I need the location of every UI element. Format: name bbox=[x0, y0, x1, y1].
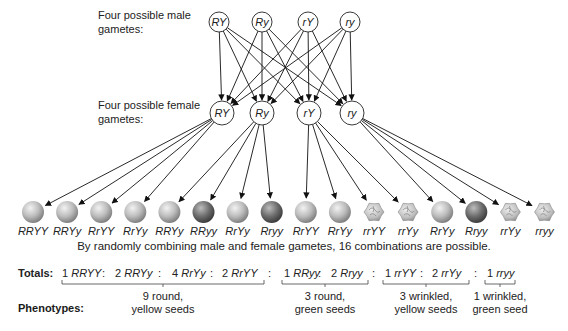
gamete-label: RY bbox=[215, 107, 231, 119]
ratio-separator: : bbox=[372, 267, 375, 279]
arrow bbox=[263, 125, 270, 198]
total-genotype: rrYy bbox=[441, 267, 461, 279]
total-count: 4 bbox=[172, 267, 178, 279]
gamete-label: rY bbox=[304, 107, 316, 119]
ratio-separator: : bbox=[420, 267, 423, 279]
arrow bbox=[361, 120, 465, 203]
arrow bbox=[145, 122, 215, 201]
arrow bbox=[112, 121, 213, 204]
total-count: 2 bbox=[331, 267, 337, 279]
total-genotype: rrYY bbox=[394, 267, 416, 279]
seed-round-green bbox=[193, 201, 215, 223]
total-item-rryy: 1 RRYY bbox=[62, 267, 101, 279]
arrow bbox=[306, 125, 308, 198]
arrow bbox=[227, 28, 341, 106]
arrow bbox=[268, 31, 304, 101]
ratio-separator: : bbox=[158, 267, 161, 279]
phenotype-1-wrinkled-green: 1 wrinkled, green seed bbox=[460, 290, 540, 316]
total-count: 1 bbox=[487, 267, 493, 279]
gamete-label: rY bbox=[303, 16, 315, 28]
male-gamete-ry: rY bbox=[298, 12, 318, 32]
seed-round-green bbox=[465, 201, 487, 223]
gamete-label: Ry bbox=[255, 16, 270, 28]
ratio-separator: : bbox=[102, 267, 105, 279]
total-count: 1 bbox=[62, 267, 68, 279]
seed-round-yellow bbox=[56, 201, 78, 223]
total-item-rryy: 1 RRyy bbox=[284, 267, 320, 279]
phenotype-3-round-green: 3 round, green seeds bbox=[275, 290, 375, 316]
female-gamete-ry: RY bbox=[210, 101, 234, 125]
seed-round-yellow bbox=[295, 201, 317, 223]
ratio-separator: : bbox=[210, 267, 213, 279]
arrow bbox=[223, 31, 256, 101]
total-count: 1 bbox=[385, 267, 391, 279]
seed-row bbox=[22, 201, 555, 223]
total-genotype: RrYY bbox=[231, 267, 257, 279]
gamete-label: ry bbox=[345, 16, 356, 28]
seed-round-green bbox=[261, 201, 283, 223]
seed-round-yellow bbox=[431, 201, 453, 223]
total-genotype: rryy bbox=[496, 267, 514, 279]
seed-wrinkled-yellow bbox=[364, 203, 384, 220]
female-to-seed-arrows bbox=[45, 118, 532, 205]
arrow bbox=[45, 119, 211, 206]
total-item-rryy: 1 rryy bbox=[487, 267, 515, 279]
totals-heading: Totals: bbox=[18, 267, 53, 279]
seed-round-yellow bbox=[227, 201, 249, 223]
cross-diagram: RYRyrYry RYRyrYry bbox=[0, 0, 568, 331]
arrow bbox=[233, 28, 342, 106]
total-count: 2 bbox=[432, 267, 438, 279]
male-gamete-ry: ry bbox=[340, 12, 360, 32]
seed-round-yellow bbox=[158, 201, 180, 223]
total-genotype: RrYy bbox=[181, 267, 205, 279]
seed-round-yellow bbox=[329, 201, 351, 223]
seed-round-yellow bbox=[124, 201, 146, 223]
female-gamete-ry: rY bbox=[297, 101, 321, 125]
female-gamete-ry: ry bbox=[340, 101, 364, 125]
total-item-rryy: 2 RrYY bbox=[222, 267, 257, 279]
arrow bbox=[211, 123, 256, 200]
arrow bbox=[241, 125, 259, 199]
phenotype-9-round-yellow: 9 round, yellow seeds bbox=[113, 290, 213, 316]
arrow bbox=[316, 123, 367, 200]
male-gamete-ry: Ry bbox=[252, 12, 272, 32]
gamete-label: Ry bbox=[255, 107, 270, 119]
total-count: 2 bbox=[115, 267, 121, 279]
female-gamete-ry: Ry bbox=[250, 101, 274, 125]
total-item-rryy: 1 rrYY bbox=[385, 267, 416, 279]
caption: By randomly combining male and female ga… bbox=[0, 240, 568, 252]
seed-wrinkled-green bbox=[535, 203, 555, 220]
arrow bbox=[350, 32, 351, 100]
arrow bbox=[219, 32, 221, 100]
seed-genotype-label: rryy bbox=[525, 225, 565, 237]
ratio-separator: : bbox=[318, 267, 321, 279]
gamete-label: ry bbox=[347, 107, 358, 119]
phenotypes-heading: Phenotypes: bbox=[18, 302, 84, 314]
arrow bbox=[317, 121, 398, 202]
total-item-rryy: 2 RRYy bbox=[115, 267, 153, 279]
seed-wrinkled-yellow bbox=[500, 203, 520, 220]
total-item-rryy: 2 Rryy bbox=[331, 267, 363, 279]
seed-round-yellow bbox=[90, 201, 112, 223]
total-genotype: RRYY bbox=[71, 267, 101, 279]
seed-round-yellow bbox=[22, 201, 44, 223]
total-item-rryy: 2 rrYy bbox=[432, 267, 461, 279]
arrow bbox=[79, 119, 212, 204]
arrow bbox=[308, 32, 309, 100]
total-genotype: RRYy bbox=[124, 267, 152, 279]
male-gamete-ry: RY bbox=[209, 12, 229, 32]
total-genotype: RRyy bbox=[293, 267, 320, 279]
male-to-female-arrows bbox=[219, 28, 351, 106]
total-count: 2 bbox=[222, 267, 228, 279]
arrow bbox=[231, 29, 301, 103]
arrow bbox=[226, 29, 300, 104]
ratio-separator: : bbox=[474, 267, 477, 279]
gamete-label: RY bbox=[212, 16, 228, 28]
male-gametes: RYRyrYry bbox=[209, 12, 360, 32]
arrow bbox=[360, 122, 433, 202]
arrow bbox=[267, 31, 303, 102]
arrow bbox=[362, 119, 498, 204]
total-genotype: Rryy bbox=[340, 267, 363, 279]
total-item-rryy: 4 RrYy bbox=[172, 267, 206, 279]
total-count: 1 bbox=[284, 267, 290, 279]
